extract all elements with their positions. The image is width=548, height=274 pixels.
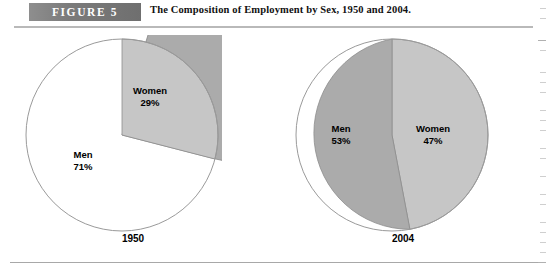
pie-1950-women-name: Women [133, 85, 167, 96]
pie-1950-men-value: 71% [73, 161, 92, 172]
pie-1950-svg [22, 35, 222, 235]
bottom-divider [10, 262, 538, 263]
pie-2004-women-value: 47% [423, 135, 442, 146]
figure-number-badge: FIGURE 5 [29, 3, 141, 21]
pie-2004-men-name: Men [332, 123, 351, 134]
pie-2004-men-value: 53% [331, 135, 350, 146]
pie-2004-year-label: 2004 [278, 233, 528, 244]
pie-1950-men-name: Men [74, 149, 93, 160]
figure-title: The Composition of Employment by Sex, 19… [150, 4, 411, 15]
pie-chart-1950: Women 29% Men 71% 1950 [8, 27, 258, 255]
pie-2004-label-women: Women 47% [396, 123, 470, 146]
pie-1950-label-men: Men 71% [48, 149, 118, 172]
pie-2004-women-name: Women [416, 123, 450, 134]
charts-container: Women 29% Men 71% 1950 Men 53% Women 47%… [0, 27, 548, 255]
pie-1950-label-women: Women 29% [115, 85, 185, 108]
figure-number-label: FIGURE 5 [29, 3, 141, 21]
page-gutter-sliver [538, 0, 548, 274]
figure-header: FIGURE 5 The Composition of Employment b… [0, 0, 548, 27]
pie-1950-year-label: 1950 [8, 233, 258, 244]
pie-1950-women-value: 29% [140, 97, 159, 108]
pie-chart-2004: Men 53% Women 47% 2004 [278, 27, 528, 255]
pie-2004-label-men: Men 53% [306, 123, 376, 146]
